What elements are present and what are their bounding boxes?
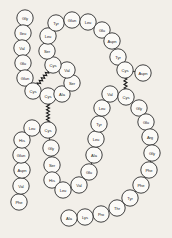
residue-label: Glu [99,28,105,33]
residue-label: Cys [50,63,57,68]
residue-node: Glu [81,164,97,180]
residue-label: Leu [29,126,36,131]
residue-label: Ala [66,216,73,221]
residue-label: Leu [99,106,106,111]
residue-node: Aspn [14,162,30,178]
residue-node: Gly [144,145,160,161]
residue-node: Cys [118,89,134,105]
residue-node: Leu [55,182,71,198]
residue-label: Tyr [115,55,121,60]
residue-nodes-layer: GlyIleuValGluGlunCysCysAlaSerValCysSerLe… [11,10,160,226]
residue-node: Phe [133,177,149,193]
residue-label: Pro [98,212,105,217]
residue-label: Ileu [20,31,26,36]
residue-node: Val [102,86,118,102]
residue-node: Glu [15,55,31,71]
residue-label: Glun [17,153,26,158]
residue-label: Ser [69,81,76,86]
residue-label: Cys [45,94,52,99]
residue-label: Ala [91,153,98,158]
residue-node: Thr [109,200,125,216]
residue-node: Ileu [15,25,31,41]
residue-node: Lys [77,209,93,225]
residue-label: Phe [137,183,145,188]
residue-label: Aspn [138,71,148,76]
residue-node: Phe [141,162,157,178]
disulfide-bridge [47,103,50,123]
residue-label: Phe [145,168,153,173]
residue-label: Ser [49,163,56,168]
residue-node: Gly [43,140,59,156]
residue-label: Cys [45,128,52,133]
residue-node: Leu [88,131,104,147]
residue-label: Leu [45,34,52,39]
residue-label: His [19,138,25,143]
residue-node: Tyr [48,15,64,31]
residue-label: Thr [114,206,121,211]
residue-node: Val [13,178,29,194]
residue-label: Val [76,183,82,188]
residue-label: Aspn [107,39,117,44]
residue-node: Glun [64,12,80,28]
residue-node: Ser [44,157,60,173]
residue-node: Glu [138,114,154,130]
residue-node: Aspn [135,65,151,81]
insulin-diagram-canvas: GlyIleuValGluGlunCysCysAlaSerValCysSerLe… [0,0,172,238]
residue-node: Aspn [104,33,120,49]
residue-label: Glu [86,170,92,175]
residue-node: Cys [117,62,133,78]
residue-node: Leu [24,120,40,136]
residue-node: Gly [17,10,33,26]
insulin-structure-svg: GlyIleuValGluGlunCysCysAlaSerValCysSerLe… [0,0,172,238]
residue-label: Glu [143,120,149,125]
residue-label: Leu [85,20,92,25]
residue-node: Ala [86,147,102,163]
residue-label: Val [18,184,24,189]
residue-label: Cys [122,68,129,73]
residue-label: His [49,178,55,183]
residue-node: Cys [40,122,56,138]
residue-label: Glu [20,61,26,66]
residue-label: Arg [147,135,154,140]
residue-label: Gly [48,146,55,151]
residue-label: Val [107,92,113,97]
residue-label: Ser [44,49,51,54]
residue-label: Phe [15,200,23,205]
residue-label: Cys [30,89,37,94]
residue-label: Lys [82,215,88,220]
residue-node: Arg [142,129,158,145]
residue-node: Tyr [91,116,107,132]
residue-label: Tyr [53,21,59,26]
residue-label: Glun [68,18,77,23]
disulfide-bridge [124,77,127,90]
residue-label: Tyr [127,196,133,201]
residue-label: Gly [22,16,29,21]
residue-node: Val [14,40,30,56]
residue-label: Val [19,46,25,51]
residue-node: Cys [25,83,41,99]
residue-label: Aspn [17,168,27,173]
residue-label: Cys [123,95,130,100]
residue-label: Tyr [96,122,102,127]
residue-node: Ala [61,210,77,226]
residue-node: Glun [13,147,29,163]
residue-label: Val [64,68,70,73]
residue-node: Pro [93,206,109,222]
disulfide-bridge [37,70,49,86]
residue-node: Ser [39,43,55,59]
residue-label: Glun [21,76,30,81]
residue-node: Phe [11,194,27,210]
residue-label: Leu [93,137,100,142]
residue-label: Leu [60,188,67,193]
residue-label: Gly [149,151,156,156]
residue-label: Ala [59,92,66,97]
residue-label: Gly [136,106,143,111]
